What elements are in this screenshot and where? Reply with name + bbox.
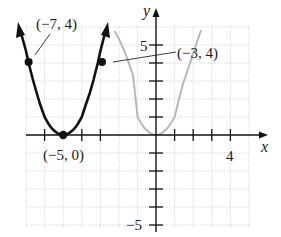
point-neg3-4 bbox=[98, 58, 106, 66]
label-point-neg3-4: (−3, 4) bbox=[177, 45, 218, 62]
y-axis-arrow-icon bbox=[153, 8, 160, 17]
y-axis-label: y bbox=[141, 2, 151, 20]
label-point-neg7-4: (−7, 4) bbox=[36, 16, 77, 33]
x-axis-label: x bbox=[260, 138, 268, 155]
label-point-neg5-0: (−5, 0) bbox=[43, 147, 84, 164]
point-neg7-4 bbox=[25, 58, 33, 66]
graph-plot: (−7, 4) (−3, 4) (−5, 0) y x 4 5 −5 bbox=[0, 0, 281, 237]
arrow-right-icon bbox=[101, 22, 110, 38]
point-neg5-0 bbox=[59, 131, 67, 139]
tick-label-4: 4 bbox=[226, 148, 234, 164]
tick-label-neg5: −5 bbox=[126, 217, 142, 233]
arrow-left-icon bbox=[16, 22, 25, 38]
tick-label-5: 5 bbox=[140, 38, 148, 54]
leader-line-a bbox=[35, 34, 50, 55]
